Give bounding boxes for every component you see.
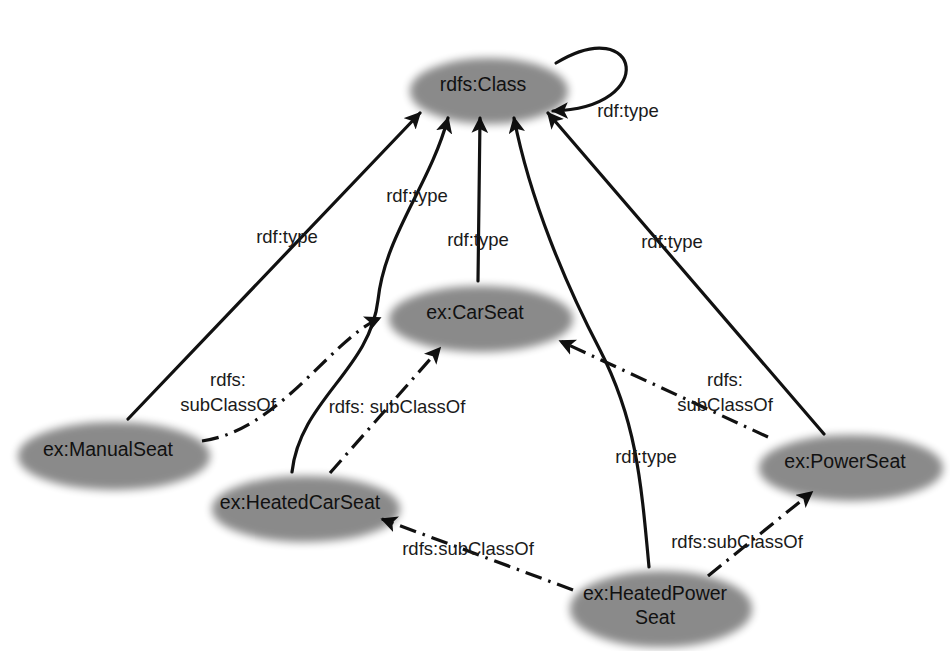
edge-label-carseat-rdftype: rdf:type bbox=[447, 229, 509, 250]
node-label-ex-carseat: ex:CarSeat bbox=[426, 301, 524, 323]
edge-powerseat-rdftype bbox=[548, 113, 824, 434]
edge-label-rdfs-class-self-type: rdf:type bbox=[597, 100, 659, 121]
edge-label-heatedpowerseat-subclassof-heatedcarseat: rdfs:subClassOf bbox=[402, 538, 534, 559]
node-ex-heatedcarseat[interactable]: ex:HeatedCarSeat bbox=[207, 471, 393, 535]
edge-label-manualseat-rdftype: rdf:type bbox=[256, 226, 318, 247]
edge-heatedpowerseat-rdftype bbox=[514, 118, 649, 567]
node-label-ex-heatedpowerseat: ex:HeatedPower bbox=[583, 582, 728, 604]
node-ex-heatedpowerseat[interactable]: ex:HeatedPower Seat bbox=[565, 566, 745, 640]
edge-label-powerseat-subclassof: rdfs: bbox=[707, 369, 743, 390]
edge-label-heatedpowerseat-rdftype: rdf:type bbox=[615, 446, 677, 467]
rdf-class-diagram: rdfs:Class ex:CarSeat ex:ManualSeat ex:H… bbox=[0, 0, 950, 651]
edge-label-manualseat-subclassof-line2: subClassOf bbox=[180, 394, 276, 415]
node-label-ex-heatedcarseat: ex:HeatedCarSeat bbox=[220, 491, 381, 513]
edge-manualseat-rdftype bbox=[128, 113, 420, 419]
edge-label-heatedcarseat-rdftype: rdf:type bbox=[386, 185, 448, 206]
node-ex-powerseat[interactable]: ex:PowerSeat bbox=[754, 430, 936, 494]
edge-label-heatedcarseat-subclassof: rdfs: subClassOf bbox=[329, 396, 467, 417]
edge-label-powerseat-rdftype: rdf:type bbox=[641, 231, 703, 252]
node-label-ex-heatedpowerseat-line2: Seat bbox=[635, 606, 676, 628]
edge-label-manualseat-subclassof: rdfs: bbox=[210, 369, 246, 390]
node-ex-carseat[interactable]: ex:CarSeat bbox=[384, 281, 566, 345]
node-rdfs-class[interactable]: rdfs:Class bbox=[405, 53, 561, 117]
node-label-ex-powerseat: ex:PowerSeat bbox=[784, 450, 906, 472]
diagram-canvas: rdfs:Class ex:CarSeat ex:ManualSeat ex:H… bbox=[0, 0, 950, 651]
edge-label-heatedpowerseat-subclassof-powerseat: rdfs:subClassOf bbox=[671, 531, 803, 552]
node-ex-manualseat[interactable]: ex:ManualSeat bbox=[13, 417, 203, 483]
edge-carseat-rdftype bbox=[478, 118, 480, 281]
node-label-rdfs-class: rdfs:Class bbox=[440, 73, 527, 95]
edge-label-powerseat-subclassof-line2: subClassOf bbox=[677, 394, 773, 415]
node-label-ex-manualseat: ex:ManualSeat bbox=[43, 438, 174, 460]
